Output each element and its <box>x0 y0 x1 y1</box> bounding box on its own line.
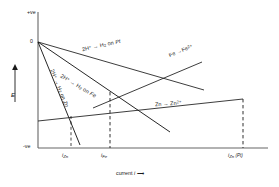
y-axis-bottom-label: -ve <box>23 143 30 149</box>
y-axis-zero-label: 0 <box>30 38 33 44</box>
evans-diagram-plot <box>0 0 279 187</box>
xtick-i-zn-pt: iZn (Pt) <box>228 152 243 159</box>
y-axis-title: E <box>11 92 15 98</box>
x-axis-arrow-glyph: ⟶ <box>137 170 144 176</box>
y-axis-top-label: +ve <box>27 9 36 15</box>
x-axis-title: current i ⟶ <box>116 170 144 176</box>
xtick-i-zn: iZn <box>62 152 68 159</box>
x-axis-title-symbol: i <box>134 170 135 176</box>
xtick-i-fe: iFe <box>101 152 107 159</box>
x-axis-title-text: current <box>116 170 133 176</box>
